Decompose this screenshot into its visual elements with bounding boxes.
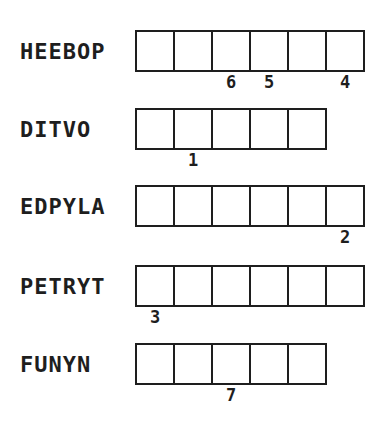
answer-cell[interactable]	[249, 185, 289, 227]
cell-number: 5	[264, 74, 274, 91]
answer-cell[interactable]	[249, 30, 289, 72]
cell-number: 4	[340, 74, 350, 91]
answer-cell[interactable]	[211, 108, 251, 150]
answer-cell[interactable]	[287, 30, 327, 72]
jumble-row: DITVO1	[0, 108, 385, 150]
answer-cells	[135, 185, 365, 227]
cell-number: 3	[150, 309, 160, 326]
answer-cells	[135, 108, 327, 150]
answer-cell[interactable]	[135, 343, 175, 385]
answer-cell[interactable]	[211, 185, 251, 227]
answer-cell[interactable]	[325, 185, 365, 227]
answer-cell[interactable]	[173, 30, 213, 72]
answer-cell[interactable]	[325, 265, 365, 307]
answer-cell[interactable]	[249, 108, 289, 150]
answer-cell[interactable]	[173, 108, 213, 150]
answer-cell[interactable]	[249, 265, 289, 307]
jumble-row: HEEBOP654	[0, 30, 385, 72]
scrambled-word: DITVO	[20, 117, 91, 142]
answer-cell[interactable]	[211, 30, 251, 72]
answer-cell[interactable]	[135, 30, 175, 72]
scrambled-word: PETRYT	[20, 274, 105, 299]
answer-cell[interactable]	[173, 343, 213, 385]
answer-cell[interactable]	[173, 265, 213, 307]
answer-cell[interactable]	[135, 265, 175, 307]
answer-cells	[135, 265, 365, 307]
cell-number: 7	[226, 387, 236, 404]
answer-cell[interactable]	[211, 265, 251, 307]
answer-cell[interactable]	[287, 185, 327, 227]
answer-cell[interactable]	[249, 343, 289, 385]
scrambled-word: FUNYN	[20, 352, 91, 377]
answer-cell[interactable]	[287, 343, 327, 385]
answer-cells	[135, 343, 327, 385]
jumble-puzzle: HEEBOP654DITVO1EDPYLA2PETRYT3FUNYN7	[0, 0, 385, 421]
answer-cell[interactable]	[135, 108, 175, 150]
jumble-row: EDPYLA2	[0, 185, 385, 227]
jumble-row: FUNYN7	[0, 343, 385, 385]
cell-number: 6	[226, 74, 236, 91]
answer-cell[interactable]	[173, 185, 213, 227]
answer-cell[interactable]	[325, 30, 365, 72]
answer-cell[interactable]	[287, 108, 327, 150]
answer-cell[interactable]	[135, 185, 175, 227]
scrambled-word: EDPYLA	[20, 194, 105, 219]
scrambled-word: HEEBOP	[20, 39, 105, 64]
answer-cell[interactable]	[287, 265, 327, 307]
answer-cells	[135, 30, 365, 72]
cell-number: 2	[340, 229, 350, 246]
answer-cell[interactable]	[211, 343, 251, 385]
jumble-row: PETRYT3	[0, 265, 385, 307]
cell-number: 1	[188, 152, 198, 169]
